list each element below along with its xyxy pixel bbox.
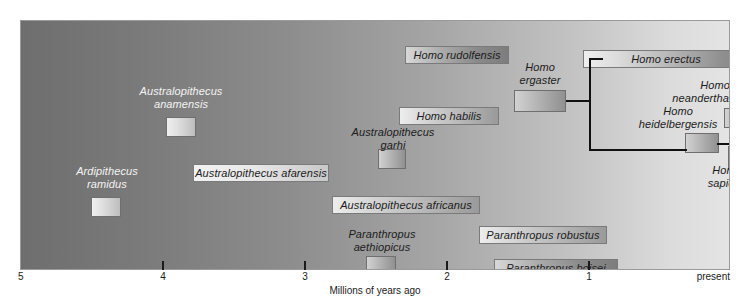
taxon-label-line: Homo <box>659 79 730 92</box>
axis-tick-label-present: present <box>697 271 730 282</box>
branch-line-node-vertical <box>589 58 591 151</box>
time-axis: Millions of years ago 54321present <box>20 270 730 305</box>
axis-tick-2 <box>446 261 448 270</box>
taxon-label-homo-ergaster: Homoergaster <box>508 61 572 87</box>
axis-tick-label-1: 1 <box>586 271 592 282</box>
taxon-label-homo-sapiens: Homosapiens <box>697 164 730 190</box>
timeline-panel: ArdipithecusramidusAustralopithecusaname… <box>20 20 730 270</box>
taxon-bar-homo-erectus: Homo erectus <box>583 50 730 68</box>
axis-tick-1 <box>588 261 590 270</box>
taxon-label-line: heidelbergensis <box>631 118 725 131</box>
branch-line-node-to-erectus <box>589 58 603 60</box>
taxon-label-line: Homo <box>508 61 572 74</box>
axis-tick-label-3: 3 <box>302 271 308 282</box>
taxon-label-paranthropus-aethiopicus: Paranthropusaethiopicus <box>339 228 425 254</box>
axis-tick-label-2: 2 <box>444 271 450 282</box>
taxon-bar-homo-ergaster <box>514 90 566 112</box>
taxon-bar-australopithecus-garhi <box>378 149 406 169</box>
taxon-label-line: Australopithecus <box>129 85 233 98</box>
taxon-label-australopithecus-garhi: Australopithecusgarhi <box>341 126 445 152</box>
taxon-bar-australopithecus-africanus: Australopithecus africanus <box>332 196 480 214</box>
taxon-bar-paranthropus-boisei: Paranthropus boisei <box>494 259 618 270</box>
taxon-label-line: anamensis <box>129 98 233 111</box>
taxon-bar-homo-rudolfensis: Homo rudolfensis <box>405 46 509 64</box>
taxon-label-line: garhi <box>341 139 445 152</box>
taxon-bar-australopithecus-afarensis: Australopithecus afarensis <box>193 164 329 182</box>
axis-tick-3 <box>304 261 306 270</box>
axis-tick-label-5: 5 <box>18 271 24 282</box>
axis-tick-label-4: 4 <box>160 271 166 282</box>
branch-line-heidelbergensis-to-split <box>717 143 730 145</box>
taxon-label-homo-heidelbergensis: Homoheidelbergensis <box>631 105 725 131</box>
branch-line-ergaster-to-node <box>566 100 591 102</box>
taxon-bar-ardipithecus-ramidus <box>91 197 121 217</box>
taxon-label-line: ramidus <box>69 178 145 191</box>
taxon-label-line: Australopithecus <box>341 126 445 139</box>
taxon-label-line: ergaster <box>508 74 572 87</box>
taxon-label-line: Homo <box>631 105 725 118</box>
taxon-label-homo-neanderthalensis: Homoneanderthalensis <box>659 79 730 105</box>
taxon-bar-homo-habilis: Homo habilis <box>399 107 499 125</box>
taxon-label-line: neanderthalensis <box>659 92 730 105</box>
taxon-label-line: Ardipithecus <box>69 165 145 178</box>
taxon-label-line: sapiens <box>697 177 730 190</box>
axis-title: Millions of years ago <box>20 285 730 296</box>
taxon-label-line: Homo <box>697 164 730 177</box>
taxon-label-line: aethiopicus <box>339 241 425 254</box>
axis-tick-4 <box>162 261 164 270</box>
taxon-bar-homo-heidelbergensis <box>685 133 719 153</box>
hominin-phylogeny-figure: ArdipithecusramidusAustralopithecusaname… <box>0 0 754 305</box>
taxon-bar-paranthropus-aethiopicus <box>366 256 396 270</box>
taxon-bar-paranthropus-robustus: Paranthropus robustus <box>479 226 607 244</box>
taxon-label-australopithecus-anamensis: Australopithecusanamensis <box>129 85 233 111</box>
taxon-bar-homo-neanderthalensis <box>724 108 730 128</box>
taxon-label-ardipithecus-ramidus: Ardipithecusramidus <box>69 165 145 191</box>
taxon-label-line: Paranthropus <box>339 228 425 241</box>
taxon-bar-australopithecus-anamensis <box>166 117 196 137</box>
branch-line-node-to-heidelbergensis <box>589 149 687 151</box>
